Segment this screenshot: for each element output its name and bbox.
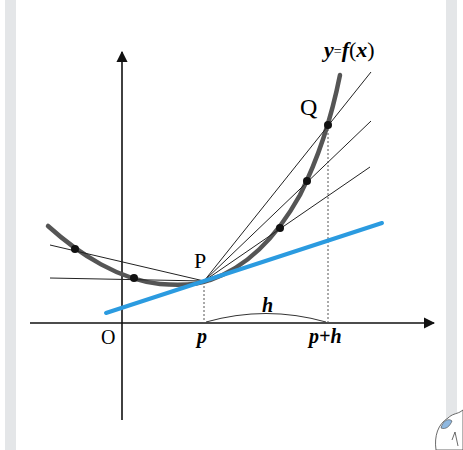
point-dot-Q bbox=[324, 121, 332, 129]
function-label: y=f(x) bbox=[321, 37, 375, 62]
mascot-illustration bbox=[436, 410, 463, 450]
point-dot bbox=[303, 177, 311, 185]
point-Q-label: Q bbox=[300, 94, 317, 120]
point-dot bbox=[276, 224, 284, 232]
origin-label: O bbox=[101, 326, 115, 348]
secant-mid bbox=[204, 121, 371, 281]
x-tick-p: p bbox=[195, 325, 207, 348]
point-dot bbox=[130, 274, 138, 282]
point-P-label: P bbox=[194, 248, 206, 273]
point-dot bbox=[71, 245, 79, 253]
derivative-diagram: y=f(x) Q P O p p+h h bbox=[0, 0, 463, 450]
secant-Q bbox=[204, 72, 371, 281]
interval-label-h: h bbox=[262, 294, 273, 316]
secant-near bbox=[204, 167, 370, 281]
x-tick-p-plus-h: p+h bbox=[307, 325, 342, 348]
